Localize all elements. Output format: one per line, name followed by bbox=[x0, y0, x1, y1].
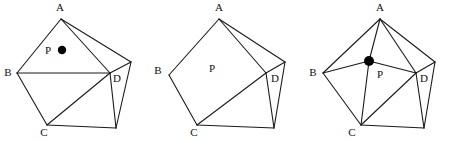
figure-2: ABCDP bbox=[150, 0, 303, 142]
label-D: D bbox=[113, 72, 121, 84]
label-B: B bbox=[309, 66, 316, 78]
edge-A-B bbox=[17, 19, 61, 73]
edge-C-E2 bbox=[47, 125, 116, 128]
diagram-canvas: ABCDP ABCDP ABCDP bbox=[0, 0, 453, 142]
figure-1: ABCDP bbox=[0, 0, 153, 142]
chord-C-D bbox=[361, 73, 416, 125]
label-D: D bbox=[420, 72, 428, 84]
point-P-dot bbox=[364, 56, 374, 66]
figure-1-svg: ABCDP bbox=[0, 0, 153, 142]
label-D: D bbox=[271, 72, 279, 84]
figure-3-svg: ABCDP bbox=[300, 0, 453, 142]
edge-C-E2 bbox=[197, 125, 274, 128]
edge-C-E2 bbox=[361, 125, 424, 128]
figure-3: ABCDP bbox=[300, 0, 453, 142]
edge-E1-A bbox=[219, 19, 285, 62]
label-P: P bbox=[45, 44, 51, 56]
point-P-dot bbox=[58, 46, 66, 54]
label-A: A bbox=[376, 1, 384, 13]
label-P: P bbox=[209, 62, 215, 74]
spoke-P-A bbox=[369, 19, 380, 61]
label-C: C bbox=[40, 126, 47, 138]
edge-B-C bbox=[17, 73, 47, 125]
edge-E1-A bbox=[61, 19, 131, 62]
label-A: A bbox=[56, 1, 64, 13]
figure-2-svg: ABCDP bbox=[150, 0, 303, 142]
label-B: B bbox=[4, 66, 11, 78]
chord-A-D bbox=[219, 19, 266, 73]
chord-A-D bbox=[61, 19, 110, 73]
spoke-P-C bbox=[361, 61, 369, 125]
label-A: A bbox=[215, 1, 223, 13]
edge-B-C bbox=[169, 75, 197, 125]
chord-C-D bbox=[47, 73, 110, 125]
edge-B-C bbox=[323, 73, 361, 125]
chord-C-D bbox=[197, 73, 266, 125]
edge-E1-A bbox=[380, 19, 435, 62]
label-C: C bbox=[190, 126, 197, 138]
label-P: P bbox=[377, 68, 383, 80]
label-B: B bbox=[154, 64, 161, 76]
label-C: C bbox=[348, 126, 355, 138]
